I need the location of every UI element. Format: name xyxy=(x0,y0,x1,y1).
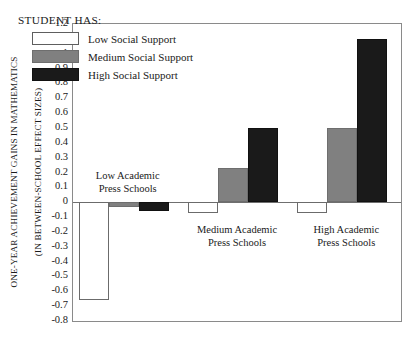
x-axis-group-label-1: Low AcademicPress Schools xyxy=(73,170,182,195)
y-tick-label: -0.1 xyxy=(51,211,68,221)
group-label-line-2: Press Schools xyxy=(182,237,291,250)
y-tick-label: 0 xyxy=(63,196,68,206)
bar-medium-group-2 xyxy=(218,168,248,202)
y-tick-label: -0.4 xyxy=(51,256,68,266)
x-axis-group-label-2: Medium AcademicPress Schools xyxy=(182,224,291,249)
bar-high-group-2 xyxy=(248,128,278,202)
legend-label-low: Low Social Support xyxy=(88,33,176,45)
y-tick-label: -0.3 xyxy=(51,241,68,251)
legend-label-medium: Medium Social Support xyxy=(88,51,193,63)
group-label-line-1: Medium Academic xyxy=(182,224,291,237)
bar-low-group-2 xyxy=(188,202,218,212)
legend-swatch-low-icon xyxy=(32,32,79,45)
legend-swatch-medium-icon xyxy=(32,50,79,63)
group-label-line-1: High Academic xyxy=(292,224,401,237)
group-label-line-2: Press Schools xyxy=(73,183,182,196)
y-tick-label: 0.6 xyxy=(55,107,68,117)
bar-medium-group-1 xyxy=(109,202,139,206)
y-tick-label: -0.2 xyxy=(51,226,68,236)
bar-chart-figure: ONE-YEAR ACHIEVEMENT GAINS IN MATHEMATIC… xyxy=(0,0,414,343)
x-axis-group-label-3: High AcademicPress Schools xyxy=(292,224,401,249)
y-tick-label: -0.6 xyxy=(51,285,68,295)
bar-low-group-3 xyxy=(297,202,327,212)
bar-high-group-1 xyxy=(139,202,169,211)
legend-label-high: High Social Support xyxy=(88,69,178,81)
y-tick-label: -0.5 xyxy=(51,270,68,280)
legend-item-high: High Social Support xyxy=(18,67,193,82)
legend-item-medium: Medium Social Support xyxy=(18,49,193,64)
legend-title: STUDENT HAS: xyxy=(18,14,193,26)
y-tick-label: 0.4 xyxy=(55,137,68,147)
y-tick-label: -0.8 xyxy=(51,315,68,325)
bar-medium-group-3 xyxy=(327,128,357,202)
legend: STUDENT HAS: Low Social Support Medium S… xyxy=(18,14,193,85)
group-label-line-2: Press Schools xyxy=(292,237,401,250)
legend-item-low: Low Social Support xyxy=(18,31,193,46)
legend-swatch-high-icon xyxy=(32,68,79,81)
y-axis-title-line-1: ONE-YEAR ACHIEVEMENT GAINS IN MATHEMATIC… xyxy=(9,56,19,287)
y-tick-label: -0.7 xyxy=(51,300,68,310)
y-tick-label: 0.1 xyxy=(55,181,68,191)
bar-low-group-1 xyxy=(79,202,109,300)
y-tick-label: 0.5 xyxy=(55,122,68,132)
y-tick-label: 0.3 xyxy=(55,152,68,162)
group-label-line-1: Low Academic xyxy=(73,170,182,183)
bar-high-group-3 xyxy=(357,39,387,202)
y-tick-label: 0.2 xyxy=(55,167,68,177)
y-tick-label: 0.7 xyxy=(55,92,68,102)
